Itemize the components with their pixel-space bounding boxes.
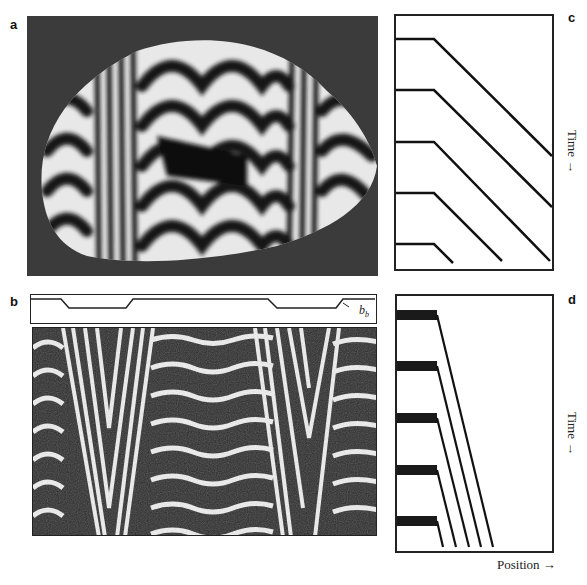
time-axis-label-d: Time → [564,412,580,455]
shell-photograph [27,16,378,276]
wave-plot-d [395,294,554,553]
panel-label-b: b [10,294,18,309]
panel-label-c: c [568,10,575,25]
panel-label-d: d [568,292,576,307]
time-axis-label-c: Time → [564,130,580,173]
wave-plot-c [394,14,554,271]
profile-plot-bb: bb [30,294,377,324]
profile-label-subscript: b [365,310,369,319]
simulated-pattern [32,327,377,536]
panel-label-a: a [10,17,17,32]
position-axis-label: Position → [497,557,556,573]
profile-label: bb [359,303,369,319]
